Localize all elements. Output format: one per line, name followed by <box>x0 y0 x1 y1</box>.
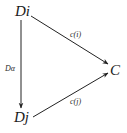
label-c-j: c(j) <box>70 97 81 106</box>
arrow-dj-to-c <box>33 73 108 117</box>
label-c-i: c(i) <box>70 30 81 39</box>
label-d-alpha: Dα <box>4 64 16 73</box>
arrow-di-to-c <box>31 16 108 64</box>
node-dj: Dj <box>13 109 29 125</box>
commutative-diagram: c(i) c(j) Dα Di Dj C <box>0 0 127 133</box>
node-c: C <box>110 62 121 78</box>
node-di: Di <box>14 3 30 19</box>
